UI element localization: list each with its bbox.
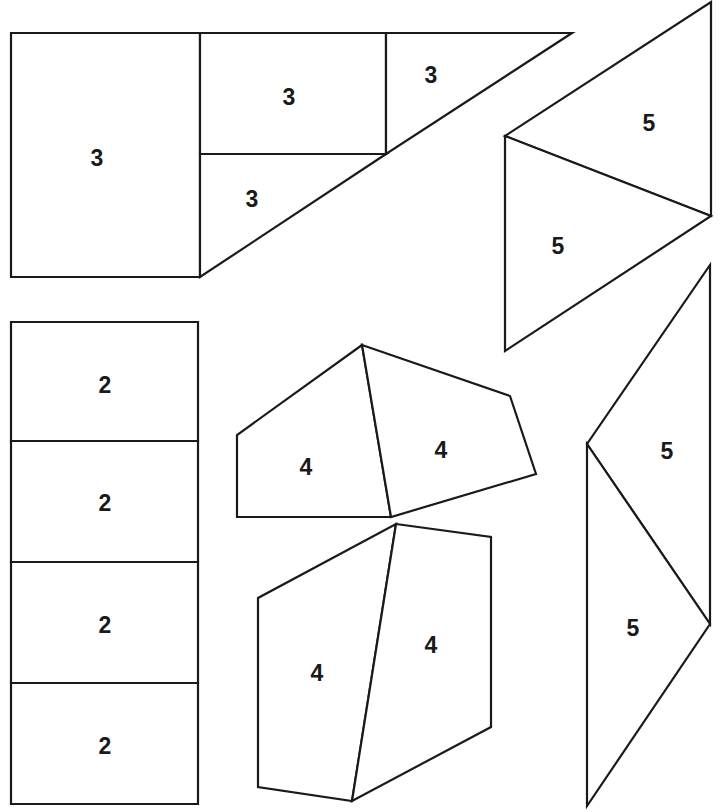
piece-label-p4a: 4 bbox=[300, 454, 313, 480]
piece-label-p4b: 4 bbox=[435, 437, 448, 463]
pieces-layer bbox=[11, 2, 711, 806]
piece-label-p4c: 4 bbox=[311, 660, 324, 686]
tangram-diagram: 3333552222444455 bbox=[0, 0, 723, 812]
group-4-top bbox=[237, 345, 536, 517]
puzzle-piece-p4b bbox=[362, 345, 536, 517]
piece-label-p3b: 3 bbox=[283, 84, 296, 110]
piece-label-p5a: 5 bbox=[643, 110, 656, 136]
piece-label-p5d: 5 bbox=[627, 615, 640, 641]
piece-label-p2c: 2 bbox=[99, 612, 112, 638]
puzzle-piece-p3a bbox=[11, 33, 200, 277]
piece-label-p2a: 2 bbox=[99, 372, 112, 398]
piece-label-p5b: 5 bbox=[552, 233, 565, 259]
piece-label-p3a: 3 bbox=[91, 145, 104, 171]
piece-label-p5c: 5 bbox=[661, 438, 674, 464]
piece-label-p4d: 4 bbox=[425, 632, 438, 658]
piece-label-p3d: 3 bbox=[246, 186, 259, 212]
piece-label-p2d: 2 bbox=[99, 733, 112, 759]
piece-label-p2b: 2 bbox=[99, 490, 112, 516]
group-5-bottom bbox=[587, 265, 710, 806]
group-4-bottom bbox=[258, 524, 491, 801]
piece-label-p3c: 3 bbox=[425, 62, 438, 88]
puzzle-piece-p3d bbox=[200, 154, 386, 277]
